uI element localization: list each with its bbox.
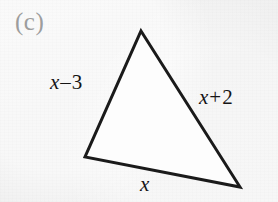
side-label-bottom-variable: x	[140, 172, 149, 196]
side-label-bottom: x	[140, 174, 149, 195]
triangle-shape	[0, 0, 278, 202]
triangle-polygon	[85, 31, 240, 187]
triangle-figure: (c) x–3 x+2 x	[0, 0, 278, 202]
side-label-left: x–3	[50, 72, 82, 93]
side-label-left-number: 3	[72, 70, 83, 94]
side-label-right-operator: +	[208, 85, 222, 109]
side-label-left-variable: x	[50, 70, 59, 94]
side-label-right-number: 2	[222, 85, 233, 109]
side-label-right: x+2	[199, 87, 233, 108]
side-label-left-operator: –	[59, 70, 72, 94]
side-label-right-variable: x	[199, 85, 208, 109]
